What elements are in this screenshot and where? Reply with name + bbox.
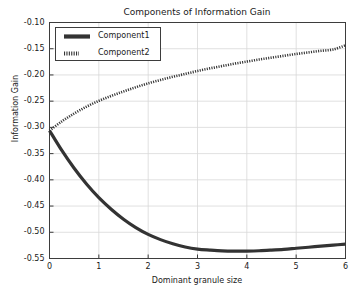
x-tick-label: 4 — [238, 262, 256, 271]
y-tick-label: -0.45 — [13, 201, 45, 210]
x-tick-label: 2 — [139, 262, 157, 271]
legend-item-component2: Component2 — [56, 45, 160, 62]
chart-legend: Component1 Component2 — [55, 27, 161, 61]
legend-swatch-dotted-icon — [62, 45, 92, 62]
y-tick-label: -0.20 — [13, 70, 45, 79]
y-tick-label: -0.10 — [13, 18, 45, 27]
legend-swatch-solid-icon — [62, 28, 92, 45]
y-tick-label: -0.40 — [13, 175, 45, 184]
x-tick-label: 1 — [90, 262, 108, 271]
chart-figure: Components of Information Gain Informati… — [0, 0, 362, 294]
y-tick-label: -0.30 — [13, 122, 45, 131]
y-tick-label: -0.50 — [13, 227, 45, 236]
x-tick-label: 5 — [287, 262, 305, 271]
x-tick-label: 0 — [41, 262, 59, 271]
y-tick-label: -0.15 — [13, 44, 45, 53]
y-tick-label: -0.35 — [13, 149, 45, 158]
legend-label-component2: Component2 — [98, 48, 150, 57]
legend-item-component1: Component1 — [56, 28, 160, 45]
legend-label-component1: Component1 — [98, 31, 150, 40]
x-tick-label: 6 — [337, 262, 355, 271]
x-tick-label: 3 — [189, 262, 207, 271]
y-tick-label: -0.25 — [13, 96, 45, 105]
